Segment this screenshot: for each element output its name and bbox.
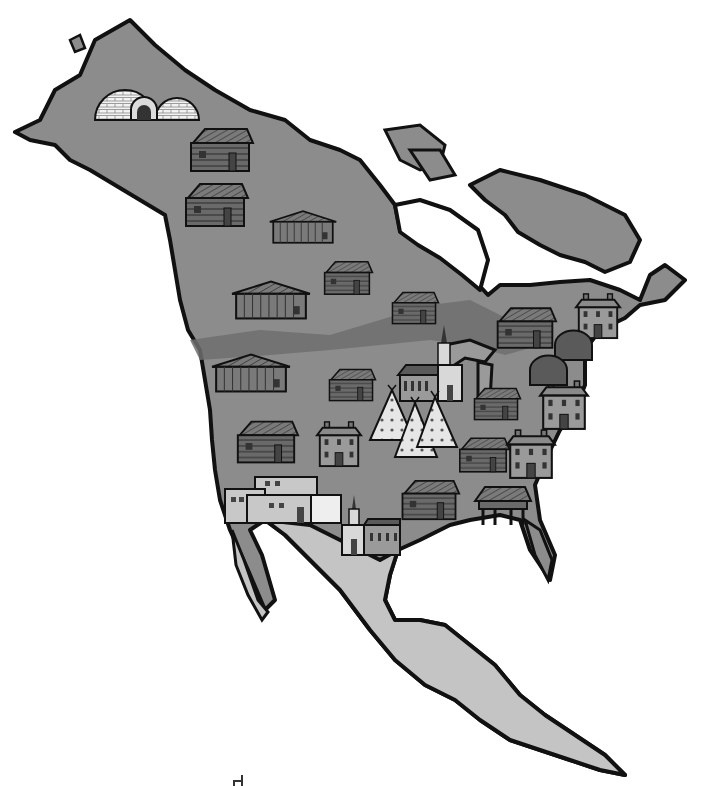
log-cabin-icon <box>392 292 438 323</box>
north-america-map <box>0 0 711 786</box>
log-cabin-icon <box>186 184 248 226</box>
log-cabin-icon <box>474 388 520 419</box>
log-cabin-icon <box>498 308 556 348</box>
log-cabin-icon <box>238 422 298 463</box>
log-cabin-icon <box>329 369 375 400</box>
stilt-house-icon <box>475 487 531 525</box>
colonial-house-icon <box>507 430 555 478</box>
log-cabin-icon <box>191 129 253 171</box>
colonial-house-icon <box>317 422 361 466</box>
log-cabin-icon <box>460 438 510 472</box>
colonial-house-icon <box>540 381 588 429</box>
stray-mark <box>228 773 258 786</box>
log-cabin-icon <box>402 481 459 519</box>
log-cabin-icon <box>325 262 373 294</box>
